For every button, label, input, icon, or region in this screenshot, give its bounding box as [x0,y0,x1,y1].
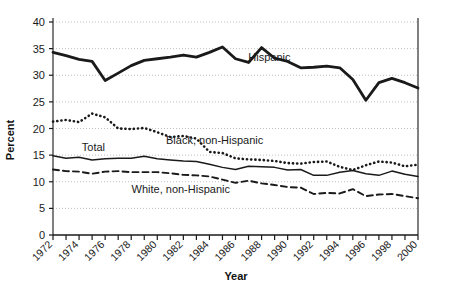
y-tick-label: 30 [33,69,45,81]
x-axis-title: Year [224,270,248,282]
series-label-white-non-hispanic: White, non-Hispanic [132,183,231,195]
chart-container: 0510152025303540 19721974197619781980198… [0,0,461,289]
y-tick-label: 5 [39,202,45,214]
y-axis-title: Percent [4,119,16,160]
series-label-black-non-hispanic: Black, non-Hispanic [166,134,264,146]
y-tick-label: 35 [33,43,45,55]
line-chart: 0510152025303540 19721974197619781980198… [0,0,461,289]
y-tick-label: 10 [33,176,45,188]
y-tick-label: 25 [33,96,45,108]
series-label-hispanic: Hispanic [248,51,291,63]
y-tick-label: 20 [33,123,45,135]
y-tick-label: 15 [33,149,45,161]
y-tick-label: 40 [33,16,45,28]
series-label-total: Total [82,141,105,153]
